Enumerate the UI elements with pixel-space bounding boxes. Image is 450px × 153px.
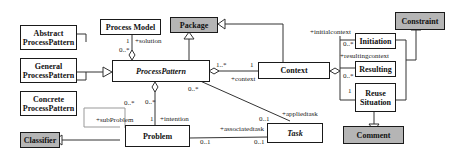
class-package: Package [170, 17, 218, 33]
role-label: +context [231, 75, 256, 83]
role-label: +subProblem [96, 116, 133, 124]
class-label: Reuse Situation [356, 89, 395, 107]
class-label: Abstract ProcessPattern [21, 29, 76, 47]
class-label: Classifier [24, 136, 56, 145]
class-processpattern: ProcessPattern [112, 60, 210, 82]
multiplicity-label: 1 [348, 87, 352, 95]
generalization-arrow-icon [218, 19, 225, 29]
multiplicity-label: 0..1 [254, 138, 265, 146]
multiplicity-label: 0..1 [259, 115, 270, 123]
class-problem: Problem [125, 125, 190, 147]
class-concrete-processpattern: Concrete ProcessPattern [20, 91, 77, 116]
class-label: Context [280, 66, 307, 75]
class-resulting: Resulting [355, 61, 396, 77]
role-label: +intention [160, 115, 189, 123]
multiplicity-label: 1 [150, 115, 154, 123]
multiplicity-label: 0..* [188, 85, 199, 93]
uml-diagram: Abstract ProcessPattern General ProcessP… [0, 0, 450, 153]
role-label: +resultingcontext [340, 52, 389, 60]
class-general-processpattern: General ProcessPattern [20, 58, 77, 83]
class-label: Constraint [402, 17, 439, 26]
role-label: +solution [135, 37, 162, 45]
class-process-model: Process Model [100, 19, 161, 35]
class-label: Resulting [359, 65, 391, 74]
class-label: Task [287, 129, 302, 138]
class-label: Process Model [106, 23, 155, 32]
role-label: +initialcontext [310, 28, 351, 36]
class-label: Problem [143, 132, 172, 141]
role-label: +appliedtask [282, 110, 318, 118]
class-task: Task [267, 123, 323, 143]
multiplicity-label: 0..* [119, 46, 130, 54]
class-constraint: Constraint [395, 12, 445, 30]
generalization-arrow-icon [184, 32, 194, 39]
class-label: Initiation [359, 37, 391, 46]
class-context: Context [258, 62, 330, 79]
aggregation-diamond-icon [330, 68, 340, 74]
class-label: Comment [357, 131, 391, 140]
class-reuse-situation: Reuse Situation [355, 83, 396, 112]
multiplicity-label: 0..* [124, 99, 135, 107]
role-label: +associatedtask [220, 125, 264, 133]
class-classifier: Classifier [20, 132, 60, 148]
generalization-arrow-icon [103, 67, 112, 77]
aggregation-diamond-icon [152, 82, 158, 92]
class-abstract-processpattern: Abstract ProcessPattern [20, 25, 77, 50]
multiplicity-label: 1..* [216, 61, 227, 69]
multiplicity-label: 1 [126, 37, 130, 45]
multiplicity-label: 0..1 [200, 138, 211, 146]
class-label: Concrete ProcessPattern [21, 95, 76, 113]
multiplicity-label: 0..* [145, 98, 156, 106]
multiplicity-label: 0..* [343, 72, 354, 80]
class-label: General ProcessPattern [21, 62, 76, 80]
multiplicity-label: 1 [250, 61, 254, 69]
multiplicity-label: 0..* [343, 40, 354, 48]
class-label: Package [180, 21, 208, 30]
class-label: ProcessPattern [136, 67, 186, 76]
class-comment: Comment [343, 126, 404, 144]
class-initiation: Initiation [355, 33, 396, 49]
